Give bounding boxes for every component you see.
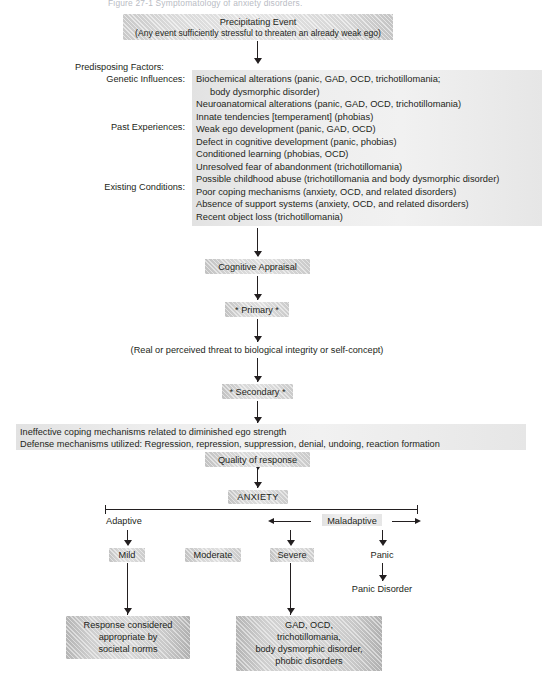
- arrow-right-icon: [415, 518, 421, 524]
- coping-mechanisms-panel: Ineffective coping mechanisms related to…: [16, 424, 526, 450]
- continuum-tick-right: [417, 505, 418, 514]
- anxiety-continuum-line: [105, 509, 418, 510]
- coping-line-1: Ineffective coping mechanisms related to…: [16, 424, 526, 438]
- threat-note: (Real or perceived threat to biological …: [57, 344, 457, 356]
- maladaptive-line-right: [392, 521, 416, 522]
- level-box-moderate: Moderate: [185, 548, 241, 562]
- coping-line-2: Defense mechanisms utilized: Regression,…: [16, 438, 526, 450]
- outcome-line: Response considered: [66, 619, 190, 631]
- arrow-down-icon: [287, 608, 295, 614]
- precipitating-event-subtitle: (Any event sufficiently stressful to thr…: [123, 28, 393, 39]
- factor-item: body dysmorphic disorder): [196, 86, 542, 99]
- cognitive-appraisal-box: Cognitive Appraisal: [205, 259, 310, 274]
- factor-item: Poor coping mechanisms (anxiety, OCD, an…: [196, 186, 542, 199]
- arrow-down-icon: [254, 482, 262, 488]
- arrow-down-icon: [287, 540, 295, 546]
- arrow-down-icon: [379, 540, 387, 546]
- scale-label-maladaptive: Maladaptive: [312, 515, 392, 527]
- primary-appraisal-box: * Primary *: [225, 302, 289, 317]
- anxiety-box: ANXIETY: [228, 490, 288, 504]
- precipitating-event-title: Precipitating Event: [123, 14, 393, 28]
- secondary-appraisal-box: * Secondary *: [222, 384, 293, 399]
- factor-item: Recent object loss (trichotillomania): [196, 211, 542, 224]
- outcome-line: body dysmorphic disorder,: [236, 643, 382, 655]
- factor-item: Possible childhood abuse (trichotilloman…: [196, 173, 542, 186]
- maladaptive-line-left: [273, 521, 311, 522]
- arrow-down-icon: [254, 376, 262, 382]
- arrow-down-icon: [254, 417, 262, 423]
- outcome-line: societal norms: [66, 643, 190, 655]
- outcome-line: GAD, OCD,: [236, 619, 382, 631]
- outcome-line: appropriate by: [66, 631, 190, 643]
- adaptive-outcome-box: Response considered appropriate by socie…: [66, 616, 190, 659]
- predisposing-category-past-experiences: Past Experiences:: [75, 121, 185, 133]
- level-box-severe: Severe: [270, 548, 314, 562]
- outcome-line: phobic disorders: [236, 655, 382, 667]
- panic-disorder-label: Panic Disorder: [344, 583, 420, 595]
- figure-canvas: Figure 27-1 Symptomatology of anxiety di…: [0, 0, 542, 677]
- predisposing-factors-panel: Biochemical alterations (panic, GAD, OCD…: [192, 70, 542, 226]
- factor-item: Neuroanatomical alterations (panic, GAD,…: [196, 98, 542, 111]
- arrow-down-icon: [379, 575, 387, 581]
- arrow-down-icon: [254, 294, 262, 300]
- arrow-down-icon: [124, 608, 132, 614]
- factor-item: Weak ego development (panic, GAD, OCD): [196, 123, 542, 136]
- arrow-down-icon: [254, 336, 262, 342]
- level-box-mild: Mild: [109, 548, 145, 562]
- arrow-down-icon: [124, 540, 132, 546]
- level-label-panic: Panic: [360, 549, 404, 561]
- arrow-down-icon: [254, 58, 262, 64]
- factor-item: Unresolved fear of abandonment (trichoti…: [196, 161, 542, 174]
- predisposing-category-genetic: Genetic Influences:: [75, 73, 185, 85]
- factor-item: Defect in cognitive development (panic, …: [196, 136, 542, 149]
- maladaptive-outcome-box: GAD, OCD, trichotillomania, body dysmorp…: [236, 616, 382, 671]
- continuum-tick-left: [105, 505, 106, 514]
- precipitating-event-box: Precipitating Event (Any event sufficien…: [123, 14, 393, 40]
- predisposing-heading: Predisposing Factors:: [75, 61, 164, 73]
- figure-caption: Figure 27-1 Symptomatology of anxiety di…: [108, 0, 302, 8]
- outcome-line: trichotillomania,: [236, 631, 382, 643]
- factor-item: Absence of support systems (anxiety, OCD…: [196, 198, 542, 211]
- factor-item: Conditioned learning (phobias, OCD): [196, 148, 542, 161]
- factor-item: Biochemical alterations (panic, GAD, OCD…: [196, 73, 542, 86]
- factor-item: Innate tendencies [temperament] (phobias…: [196, 111, 542, 124]
- arrow-down-icon: [254, 251, 262, 257]
- scale-label-adaptive: Adaptive: [106, 515, 142, 527]
- quality-of-response-box: Quality of response: [205, 452, 310, 467]
- predisposing-category-existing-conditions: Existing Conditions:: [75, 181, 185, 193]
